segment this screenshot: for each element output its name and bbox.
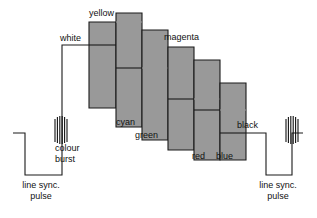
label-line-sync-pulse-right-line2: pulse [246,191,310,202]
colour-bar-waveform-figure: white yellow cyan green magenta red blue… [0,0,317,218]
label-magenta: magenta [164,32,199,42]
label-line-sync-pulse-left: line sync. pulse [9,180,73,201]
label-black: black [237,120,258,130]
label-green: green [135,130,158,140]
red-bar [194,60,220,160]
white-bar [62,45,89,133]
green-bar [142,30,168,140]
label-white: white [60,33,81,43]
label-cyan: cyan [116,117,135,127]
white-bar-path [62,45,89,133]
label-line-sync-pulse-right-line1: line sync. [246,180,310,191]
black-level-and-right-sync-path [246,133,303,175]
cyan-bar-shape [116,13,142,127]
label-line-sync-pulse-left-line1: line sync. [9,180,73,191]
label-colour-burst: colour burst [55,143,101,164]
right-sync-group [246,133,303,175]
yellow-bar-shape [89,22,116,108]
label-blue: blue [216,151,233,161]
label-yellow: yellow [89,8,114,18]
label-colour-burst-line2: burst [55,154,101,165]
label-line-sync-pulse-left-line2: pulse [9,191,73,202]
left-colour-burst [55,116,67,144]
yellow-bar [89,22,116,108]
magenta-bar [168,47,194,150]
label-colour-burst-line1: colour [55,143,101,154]
label-red: red [192,151,205,161]
green-bar-shape [142,30,168,140]
cyan-bar [116,13,142,127]
label-line-sync-pulse-right: line sync. pulse [246,180,310,201]
